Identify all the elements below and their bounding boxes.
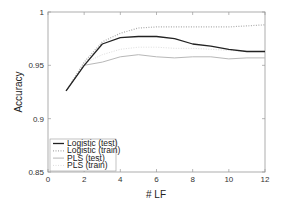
x-tick-label: 0 bbox=[46, 175, 51, 184]
y-axis-label: Accuracy bbox=[13, 71, 24, 112]
x-tick-label: 4 bbox=[118, 175, 123, 184]
y-tick-label: 1 bbox=[40, 8, 45, 17]
legend-item-label: PLS (train) bbox=[67, 160, 108, 170]
y-tick-label: 0.85 bbox=[28, 168, 44, 177]
y-tick-label: 0.95 bbox=[28, 61, 44, 70]
x-tick-label: 6 bbox=[154, 175, 159, 184]
x-tick-label: 12 bbox=[261, 175, 270, 184]
y-tick-label: 0.9 bbox=[33, 115, 45, 124]
x-axis-label: # LF bbox=[146, 189, 166, 200]
x-tick-label: 8 bbox=[190, 175, 195, 184]
legend: Logistic (test)Logistic (train)PLS (test… bbox=[50, 138, 121, 171]
x-tick-label: 10 bbox=[224, 175, 233, 184]
x-tick-label: 2 bbox=[82, 175, 87, 184]
accuracy-chart: 0.850.90.951 024681012 # LF Accuracy Log… bbox=[0, 0, 285, 206]
